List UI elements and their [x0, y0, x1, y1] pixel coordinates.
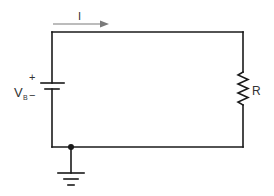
ground-icon: [58, 147, 84, 185]
current-label: I: [78, 10, 81, 22]
battery-label-subscript: B: [23, 94, 28, 101]
battery-icon: [41, 83, 64, 89]
battery-positive-sign: +: [29, 71, 35, 83]
battery-negative-sign: −: [29, 89, 35, 101]
resistor-icon: [238, 72, 248, 105]
circuit-diagram: I V B + − R: [0, 0, 274, 196]
resistor-label: R: [252, 84, 261, 98]
battery-label: V: [14, 85, 23, 100]
